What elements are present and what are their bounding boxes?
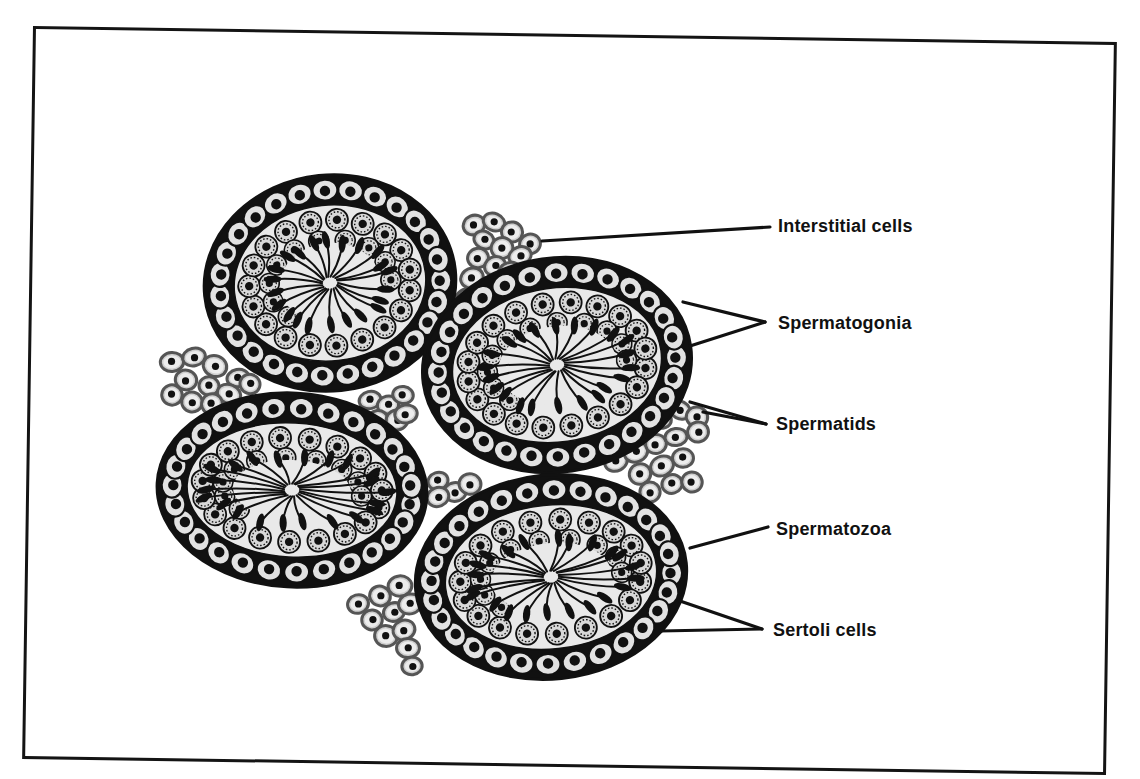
diagram-canvas: Interstitial cells Spermatogonia Spermat…: [0, 0, 1140, 779]
label-interstitial-cells: Interstitial cells: [778, 216, 913, 237]
label-sertoli-cells: Sertoli cells: [773, 620, 877, 641]
leader-line: [542, 227, 770, 241]
label-spermatids: Spermatids: [776, 414, 876, 435]
leader-line: [660, 629, 762, 631]
seminiferous-tubules-illustration: [0, 0, 1140, 779]
label-spermatogonia: Spermatogonia: [778, 313, 912, 334]
leader-line: [690, 527, 768, 548]
leader-line: [690, 322, 765, 346]
leader-line: [683, 302, 765, 322]
seminiferous-tubules: [152, 162, 705, 692]
label-spermatozoa: Spermatozoa: [776, 519, 891, 540]
interstitial-cluster: [345, 575, 423, 676]
leader-line: [680, 601, 762, 629]
